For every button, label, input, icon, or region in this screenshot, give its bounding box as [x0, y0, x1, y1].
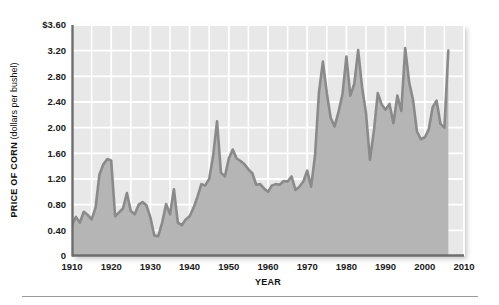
y-tick-label: $3.60: [42, 19, 66, 30]
x-tick-label: 1980: [336, 261, 357, 272]
y-axis-title: PRICE OF CORN (dollars per bushel): [9, 63, 19, 218]
x-tick-label: 1910: [61, 261, 82, 272]
y-tick-label: 2.40: [48, 96, 67, 107]
y-axis-title-units: (dollars per bushel): [9, 63, 19, 143]
y-axis-tick-labels: 00.400.801.201.602.002.402.803.20$3.60: [42, 19, 66, 261]
x-axis-title: YEAR: [255, 277, 281, 287]
chart-canvas: 00.400.801.201.602.002.402.803.20$3.60 1…: [0, 0, 499, 305]
x-tick-label: 1920: [101, 261, 122, 272]
footer-divider: [22, 296, 478, 297]
x-tick-label: 1940: [179, 261, 200, 272]
y-axis-title-bold: PRICE OF CORN: [9, 142, 19, 217]
x-tick-label: 1990: [375, 261, 396, 272]
x-tick-label: 1930: [140, 261, 161, 272]
y-tick-label: 0.80: [48, 199, 67, 210]
x-tick-label: 2010: [453, 261, 474, 272]
x-tick-label: 2000: [414, 261, 435, 272]
x-tick-label: 1970: [297, 261, 318, 272]
y-tick-label: 2.80: [48, 71, 67, 82]
x-tick-label: 1950: [218, 261, 239, 272]
y-tick-label: 1.20: [48, 173, 67, 184]
y-tick-label: 0.40: [48, 225, 67, 236]
corn-price-chart-figure: 00.400.801.201.602.002.402.803.20$3.60 1…: [0, 0, 499, 305]
y-tick-label: 3.20: [48, 45, 67, 56]
x-axis-tick-labels: 1910192019301940195019601970198019902000…: [61, 261, 474, 272]
x-tick-label: 1960: [257, 261, 278, 272]
y-tick-label: 2.00: [48, 122, 67, 133]
y-tick-label: 1.60: [48, 148, 67, 159]
y-tick-label: 0: [61, 250, 66, 261]
